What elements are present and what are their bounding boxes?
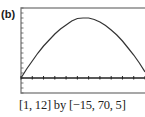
- window-settings-caption: [1, 12] by [−15, 70, 5]: [19, 98, 126, 113]
- function-curve: [21, 18, 145, 78]
